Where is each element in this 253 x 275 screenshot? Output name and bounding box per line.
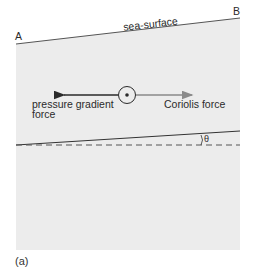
point-a-label: A <box>15 30 22 42</box>
figure-caption: (a) <box>15 255 28 267</box>
point-b-label: B <box>233 5 240 17</box>
coriolis-label: Coriolis force <box>164 98 225 110</box>
theta-label: θ <box>204 134 209 144</box>
out-of-page-flow-icon <box>119 87 136 104</box>
ocean-cross-section-diagram: A B sea-surface pressure gradient force … <box>0 0 253 275</box>
pressure-gradient-label-2: force <box>32 108 56 120</box>
